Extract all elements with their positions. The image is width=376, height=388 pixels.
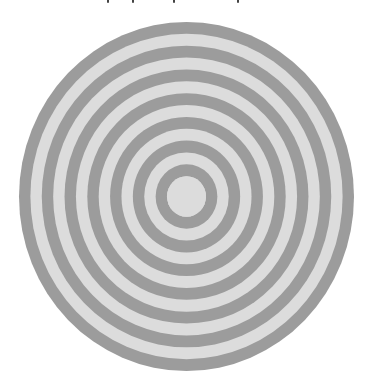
center-disc: [167, 176, 206, 217]
concentric-ring-target: [0, 0, 376, 388]
